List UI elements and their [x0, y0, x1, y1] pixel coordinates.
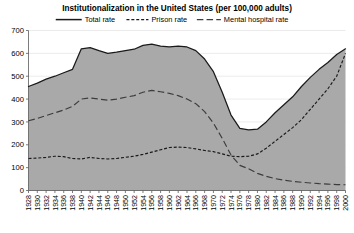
- x-axis-tick-label: 1932: [43, 195, 51, 211]
- x-axis-tick-label: 2000: [342, 195, 350, 211]
- x-axis-tick-label: 1994: [316, 195, 324, 211]
- x-axis-tick-label: 1998: [333, 195, 341, 211]
- x-axis-tick-label: 1992: [307, 195, 315, 211]
- x-axis-tick-label: 1936: [60, 195, 68, 211]
- x-axis-tick-label: 1942: [87, 195, 95, 211]
- x-axis-tick-label: 1930: [34, 195, 42, 211]
- x-axis-tick-label: 1988: [289, 195, 297, 211]
- x-axis-tick-label: 1968: [201, 195, 209, 211]
- x-axis-tick-label: 1984: [272, 195, 280, 211]
- x-axis-tick-label: 1980: [254, 195, 262, 211]
- x-axis-tick-label: 1990: [298, 195, 306, 211]
- x-axis-tick-label: 1996: [324, 195, 332, 211]
- x-axis-tick-label: 1956: [148, 195, 156, 211]
- x-axis-tick-label: 1970: [210, 195, 218, 211]
- y-axis-tick-label: 400: [11, 95, 24, 104]
- x-axis-tick-labels: 1928193019321934193619381940194219441946…: [25, 195, 350, 211]
- chart-title: Institutionalization in the United State…: [62, 4, 292, 13]
- x-axis-tick-label: 1944: [96, 195, 104, 211]
- x-axis-tick-label: 1958: [157, 195, 165, 211]
- x-axis-tick-label: 1938: [69, 195, 77, 211]
- x-axis-tick-label: 1978: [245, 195, 253, 211]
- chart-container: Institutionalization in the United State…: [0, 0, 354, 233]
- x-axis-tick-label: 1986: [280, 195, 288, 211]
- x-axis-tick-label: 1966: [192, 195, 200, 211]
- x-axis-tick-label: 1934: [52, 195, 60, 211]
- x-axis-tick-label: 1948: [113, 195, 121, 211]
- x-axis-tick-label: 1950: [122, 195, 130, 211]
- y-axis-tick-label: 700: [11, 26, 24, 35]
- y-axis-tick-label: 300: [11, 118, 24, 127]
- institutionalization-area-chart: Institutionalization in the United State…: [0, 0, 354, 233]
- x-axis-tick-label: 1952: [131, 195, 139, 211]
- legend-label: Mental hospital rate: [224, 15, 288, 24]
- x-axis-tick-label: 1974: [228, 195, 236, 211]
- y-axis-tick-label: 200: [11, 140, 24, 149]
- x-axis-tick-label: 1960: [166, 195, 174, 211]
- x-axis-tick-label: 1972: [219, 195, 227, 211]
- chart-legend: Total ratePrison rateMental hospital rat…: [56, 15, 289, 24]
- x-axis-tick-label: 1962: [175, 195, 183, 211]
- x-axis-tick-label: 1982: [263, 195, 271, 211]
- x-axis-tick-label: 1946: [104, 195, 112, 211]
- x-axis-tick-label: 1954: [140, 195, 148, 211]
- legend-label: Total rate: [85, 15, 115, 24]
- x-axis-tick-label: 1976: [236, 195, 244, 211]
- y-axis-tick-label: 100: [11, 163, 24, 172]
- legend-label: Prison rate: [151, 15, 187, 24]
- y-axis-tick-label: 600: [11, 49, 24, 58]
- x-axis-tick-label: 1964: [184, 195, 192, 211]
- y-axis-tick-label: 0: [20, 186, 24, 195]
- x-axis-tick-label: 1928: [25, 195, 33, 211]
- x-axis-tick-label: 1940: [78, 195, 86, 211]
- y-axis-tick-label: 500: [11, 72, 24, 81]
